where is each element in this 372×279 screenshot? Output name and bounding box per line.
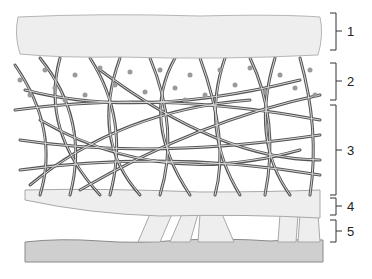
label-layer-2: 2: [347, 75, 354, 88]
layered-diagram: [0, 0, 372, 279]
label-layer-4: 4: [347, 200, 354, 213]
layer-5-pillars: [138, 214, 320, 242]
label-layer-3: 3: [347, 144, 354, 157]
brackets: [330, 13, 342, 242]
label-layer-1: 1: [347, 25, 354, 38]
label-layer-5: 5: [347, 225, 354, 238]
layer-1-band: [16, 15, 321, 58]
base-layer: [25, 239, 323, 262]
